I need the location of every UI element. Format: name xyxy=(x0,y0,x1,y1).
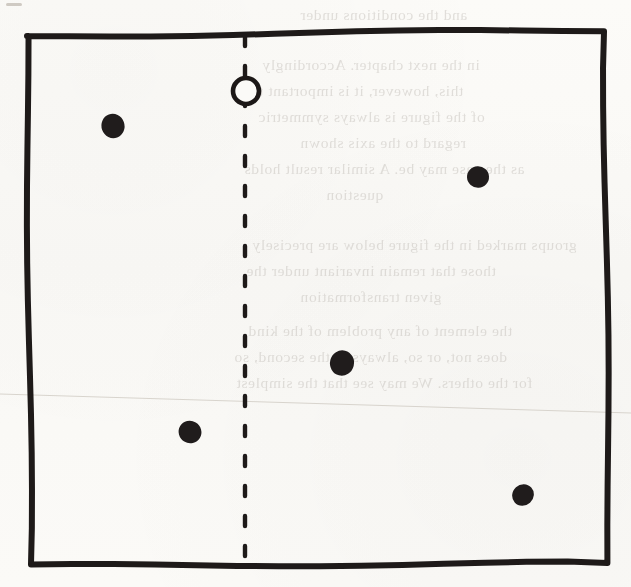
diagram-canvas xyxy=(0,0,631,587)
dot-upper-left xyxy=(98,111,128,142)
dot-lower-left xyxy=(174,417,205,448)
dot-markers-group xyxy=(98,111,538,511)
open-circle-marker xyxy=(233,78,259,104)
dot-center-right xyxy=(327,348,356,378)
scanned-figure-page: and the conditions underin the next chap… xyxy=(0,0,631,587)
dot-lower-right xyxy=(508,480,539,511)
ink-speck xyxy=(6,3,22,6)
dot-upper-right xyxy=(466,166,489,188)
scan-crease-line xyxy=(0,394,631,413)
